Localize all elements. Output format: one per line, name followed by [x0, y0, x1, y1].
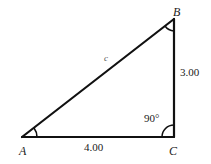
- angle-arc-b: [165, 26, 174, 31]
- angle-arc-c: [162, 125, 174, 137]
- angle-label-c: 90°: [144, 112, 159, 124]
- side-label-bc: 3.00: [180, 66, 200, 78]
- vertex-label-c: C: [169, 144, 178, 158]
- vertex-label-b: B: [173, 5, 181, 19]
- vertex-label-a: A: [18, 144, 27, 158]
- side-label-ac: 4.00: [84, 141, 104, 153]
- angle-arc-a: [34, 128, 37, 137]
- side-label-c: c: [104, 53, 108, 63]
- right-triangle-diagram: B A C c 3.00 4.00 90°: [0, 0, 211, 164]
